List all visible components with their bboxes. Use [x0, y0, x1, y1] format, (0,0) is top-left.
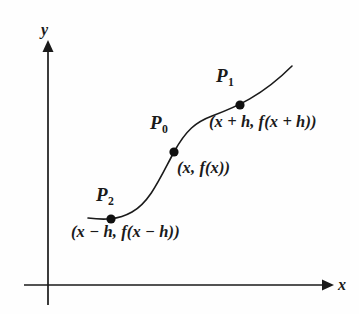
point-label-p2: P2: [96, 185, 114, 204]
point-label-p1-subscript: 1: [228, 76, 234, 89]
x-axis: [24, 280, 334, 291]
y-axis: [43, 40, 54, 305]
point-marker-p1: [235, 100, 244, 109]
x-axis-label: x: [338, 277, 346, 293]
coordinate-label-p0: (x, f(x)): [177, 160, 230, 177]
y-axis-label: y: [41, 22, 48, 38]
point-label-p1: P1: [216, 66, 234, 85]
coordinate-label-p2: (x − h, f(x − h)): [71, 224, 180, 241]
diagram-canvas: [0, 0, 359, 314]
x-axis-arrowhead-icon: [322, 280, 334, 291]
point-label-p0-letter: P: [150, 112, 162, 133]
point-label-p2-letter: P: [96, 184, 108, 205]
secant-line-diagram: y x P1 P0 P2 (x + h, f(x + h)) (x, f(x))…: [0, 0, 359, 314]
point-label-p2-subscript: 2: [108, 195, 114, 208]
point-marker-p0: [169, 147, 178, 156]
point-label-p1-letter: P: [216, 65, 228, 86]
point-label-p0-subscript: 0: [162, 123, 168, 136]
coordinate-label-p1: (x + h, f(x + h)): [209, 114, 317, 131]
function-curve: [88, 66, 292, 219]
y-axis-arrowhead-icon: [43, 40, 54, 52]
point-label-p0: P0: [150, 113, 168, 132]
